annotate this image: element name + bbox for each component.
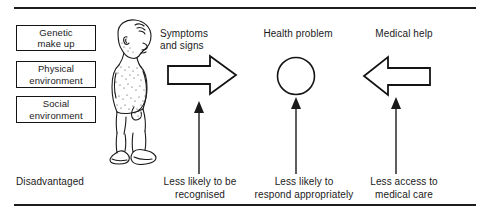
factor-label-line1: Physical (29, 63, 82, 75)
factor-box-physical-environment: Physical environment (16, 61, 96, 88)
health-problem-circle-icon (274, 54, 318, 98)
caption-less-likely-to-be-recognised: Less likely to be recognised (152, 176, 248, 201)
figure-top-rule (14, 7, 476, 9)
figure-container: Genetic make up Physical environment Soc… (0, 0, 488, 219)
right-arrow-shape-icon (166, 54, 238, 96)
factor-label-line1: Social (29, 98, 82, 110)
factor-label-line1: Genetic (37, 27, 74, 39)
child-line-drawing-icon (88, 17, 168, 165)
up-arrow-to-health-problem-icon (288, 96, 304, 176)
factor-box-social-environment: Social environment (16, 96, 96, 123)
caption-disadvantaged: Disadvantaged (16, 176, 146, 189)
left-arrow-shape-icon (362, 54, 432, 98)
column-heading-medical-help: Medical help (358, 28, 450, 40)
caption-less-access-to-medical-care: Less access to medical care (358, 176, 450, 201)
factor-label-line2: environment (29, 110, 82, 122)
factor-box-genetic-make-up: Genetic make up (16, 25, 96, 51)
column-heading-symptoms-and-signs: Symptoms and signs (160, 28, 246, 52)
factor-label-line2: environment (29, 75, 82, 87)
column-heading-health-problem: Health problem (250, 28, 346, 40)
factor-label-line2: make up (37, 38, 74, 50)
figure-bottom-rule (14, 204, 476, 206)
caption-less-likely-to-respond-appropriately: Less likely to respond appropriately (248, 176, 360, 201)
up-arrow-to-symptoms-icon (191, 100, 207, 176)
up-arrow-to-medical-help-icon (388, 96, 404, 176)
